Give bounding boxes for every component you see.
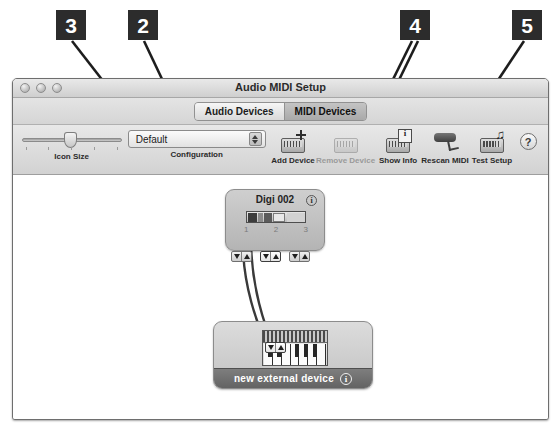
show-info-button[interactable]: Show Info bbox=[376, 130, 420, 165]
toolbar: Icon Size Default Configuration Add Devi… bbox=[13, 125, 548, 175]
callout-number: 5 bbox=[521, 15, 533, 36]
port-number: 2 bbox=[274, 225, 278, 234]
midi-cable-icon bbox=[432, 130, 458, 154]
configuration-value: Default bbox=[129, 134, 168, 145]
help-icon[interactable]: ? bbox=[520, 133, 537, 150]
screenshot-root: 3 2 4 5 Audio MIDI Setup Audio Devices M… bbox=[0, 0, 560, 426]
rack-icon bbox=[333, 130, 359, 154]
tab-bar: Audio Devices MIDI Devices bbox=[13, 98, 548, 125]
port-in[interactable] bbox=[266, 343, 276, 352]
device-label-bar: new external device i bbox=[214, 368, 372, 388]
icon-size-label: Icon Size bbox=[54, 152, 89, 161]
port-out[interactable] bbox=[300, 252, 309, 261]
device-digi-002[interactable]: Digi 002 i 1 2 3 bbox=[225, 189, 325, 251]
icon-size-control: Icon Size bbox=[21, 130, 122, 161]
port-number: 3 bbox=[304, 225, 308, 234]
remove-device-label: Remove Device bbox=[316, 156, 375, 165]
tab-label: MIDI Devices bbox=[295, 106, 357, 117]
port-out[interactable] bbox=[271, 252, 280, 261]
tab-audio-devices[interactable]: Audio Devices bbox=[195, 103, 285, 120]
slider-ticks bbox=[26, 147, 118, 151]
configuration-label: Configuration bbox=[170, 150, 222, 159]
callout-number: 4 bbox=[409, 15, 421, 36]
test-setup-label: Test Setup bbox=[472, 156, 512, 165]
test-setup-button[interactable]: ♫ Test Setup bbox=[470, 130, 514, 165]
configuration-select[interactable]: Default bbox=[128, 130, 266, 148]
device-graphic bbox=[246, 211, 306, 223]
port-out[interactable] bbox=[242, 252, 251, 261]
info-label: i bbox=[345, 374, 348, 384]
rack-info-icon bbox=[385, 130, 411, 154]
rack-plus-icon bbox=[280, 130, 306, 154]
tab-midi-devices[interactable]: MIDI Devices bbox=[285, 103, 367, 120]
device-title: new external device bbox=[234, 373, 334, 384]
callout-badge-5: 5 bbox=[512, 10, 542, 40]
callout-badge-2: 2 bbox=[128, 10, 158, 40]
port-in[interactable] bbox=[261, 252, 271, 261]
rescan-midi-button[interactable]: Rescan MIDI bbox=[422, 130, 468, 165]
remove-device-button: Remove Device bbox=[317, 130, 374, 165]
window-title: Audio MIDI Setup bbox=[13, 81, 548, 93]
port-in[interactable] bbox=[290, 252, 300, 261]
window-titlebar[interactable]: Audio MIDI Setup bbox=[13, 79, 548, 98]
device-info-icon[interactable]: i bbox=[340, 373, 352, 385]
chevron-updown-icon[interactable] bbox=[249, 132, 262, 146]
tab-label: Audio Devices bbox=[205, 106, 274, 117]
callout-badge-4: 4 bbox=[400, 10, 430, 40]
configuration-control: Default Configuration bbox=[124, 130, 269, 159]
callout-number: 3 bbox=[65, 15, 77, 36]
rack-notes-icon: ♫ bbox=[479, 130, 505, 154]
audio-midi-setup-window: Audio MIDI Setup Audio Devices MIDI Devi… bbox=[12, 78, 549, 420]
info-label: i bbox=[310, 196, 312, 205]
tab-group: Audio Devices MIDI Devices bbox=[194, 102, 368, 121]
help-label: ? bbox=[525, 136, 532, 148]
port-out[interactable] bbox=[276, 343, 285, 352]
port-pair-1[interactable] bbox=[231, 251, 252, 262]
add-device-label: Add Device bbox=[271, 156, 315, 165]
canvas-inner: Digi 002 i 1 2 3 bbox=[13, 175, 548, 419]
port-numbers: 1 2 3 bbox=[244, 225, 308, 234]
port-pair-ext-1[interactable] bbox=[265, 342, 286, 353]
add-device-button[interactable]: Add Device bbox=[271, 130, 315, 165]
help-button[interactable]: ? bbox=[516, 130, 540, 150]
slider-thumb[interactable] bbox=[64, 132, 77, 148]
port-pair-2[interactable] bbox=[260, 251, 281, 262]
midi-device-canvas[interactable]: Digi 002 i 1 2 3 bbox=[13, 175, 548, 419]
port-in[interactable] bbox=[232, 252, 242, 261]
callout-number: 2 bbox=[137, 15, 149, 36]
rescan-midi-label: Rescan MIDI bbox=[421, 156, 469, 165]
device-info-icon[interactable]: i bbox=[306, 195, 317, 206]
show-info-label: Show Info bbox=[379, 156, 417, 165]
port-pair-3[interactable] bbox=[289, 251, 310, 262]
icon-size-slider[interactable] bbox=[22, 130, 122, 150]
port-number: 1 bbox=[244, 225, 248, 234]
callout-badge-3: 3 bbox=[56, 10, 86, 40]
device-new-external-device[interactable]: new external device i bbox=[213, 321, 373, 389]
